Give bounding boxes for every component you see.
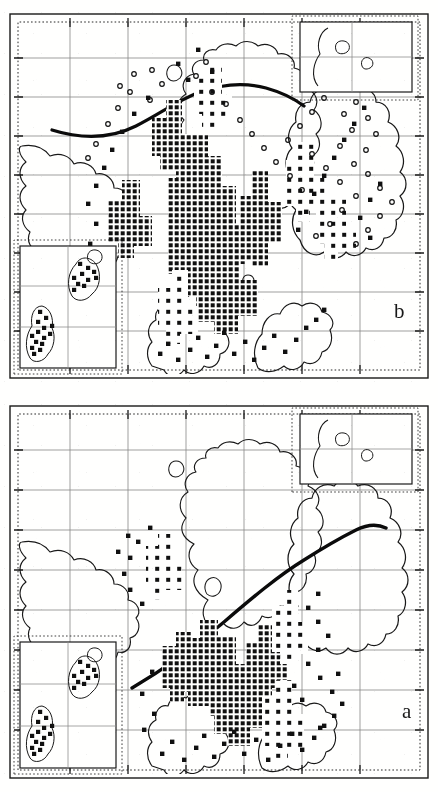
map-panel-b-rotated-canvas: b bbox=[0, 0, 438, 392]
map-panel-b: b bbox=[0, 0, 438, 392]
map-a-island-inset-lower bbox=[292, 408, 418, 492]
map-panel-a: a bbox=[0, 392, 438, 792]
map-b-island-inset-upper bbox=[14, 240, 122, 374]
map-b-svg: b bbox=[0, 0, 438, 392]
map-b-island-inset-lower bbox=[292, 16, 418, 100]
figure-page: b bbox=[0, 0, 438, 792]
panel-label-a: a bbox=[402, 699, 412, 723]
map-a-island-inset-upper bbox=[14, 636, 122, 774]
panel-label-b: b bbox=[394, 299, 405, 323]
map-panel-a-rotated-canvas: a bbox=[0, 392, 438, 792]
map-a-svg: a bbox=[0, 392, 438, 792]
